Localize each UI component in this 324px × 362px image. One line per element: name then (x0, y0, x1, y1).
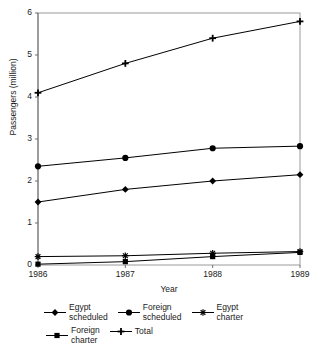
legend-key-asterisk-icon (192, 307, 214, 318)
y-tick-label: 5 (14, 50, 32, 59)
legend-row-2: Foreign charterTotal (32, 326, 308, 345)
plus-marker (117, 328, 124, 335)
series-line (38, 21, 300, 92)
legend-item-total[interactable]: Total (110, 326, 153, 337)
legend-item-foreign-scheduled[interactable]: Foreign scheduled (118, 303, 182, 322)
diamond-marker (297, 171, 304, 178)
square-marker (210, 254, 215, 259)
passengers-line-chart: Passengers (million) Year 0123456 198619… (0, 0, 324, 362)
x-tick-label: 1987 (105, 270, 145, 279)
chart-legend: Egypt scheduledForeign scheduledEgypt ch… (32, 303, 308, 349)
legend-row-1: Egypt scheduledForeign scheduledEgypt ch… (32, 303, 308, 322)
legend-label: Egypt charter (217, 303, 243, 322)
x-tick-label: 1986 (18, 270, 58, 279)
legend-label: Egypt scheduled (69, 303, 108, 322)
diamond-marker (122, 186, 129, 193)
circle-marker (126, 309, 132, 315)
circle-marker (297, 143, 303, 149)
plus-marker (122, 60, 129, 67)
square-marker (123, 259, 128, 264)
legend-key-square-icon (46, 330, 68, 341)
asterisk-marker (35, 253, 42, 260)
legend-label: Foreign charter (71, 326, 100, 345)
plus-marker (209, 35, 216, 42)
y-tick-label: 0 (14, 260, 32, 269)
legend-item-egypt-scheduled[interactable]: Egypt scheduled (44, 303, 108, 322)
series-total (35, 18, 304, 96)
y-tick-label: 3 (14, 134, 32, 143)
y-tick-label: 2 (14, 176, 32, 185)
legend-item-foreign-charter[interactable]: Foreign charter (46, 326, 100, 345)
y-tick-label: 4 (14, 92, 32, 101)
y-tick-label: 6 (14, 8, 32, 17)
plus-marker (35, 89, 42, 96)
series-egypt-scheduled (35, 171, 304, 205)
plus-marker (297, 18, 304, 25)
legend-key-diamond-icon (44, 307, 66, 318)
y-tick-label: 1 (14, 218, 32, 227)
circle-marker (210, 145, 216, 151)
series-foreign-scheduled (35, 143, 303, 169)
series-line (38, 146, 300, 166)
diamond-marker (209, 178, 216, 185)
asterisk-marker (122, 252, 129, 259)
x-tick-label: 1988 (193, 270, 233, 279)
square-marker (35, 262, 40, 267)
legend-label: Total (135, 327, 153, 337)
series-line (38, 175, 300, 202)
circle-marker (122, 155, 128, 161)
legend-label: Foreign scheduled (143, 303, 182, 322)
x-axis-title: Year (38, 284, 300, 294)
asterisk-marker (199, 309, 206, 316)
legend-key-circle-icon (118, 307, 140, 318)
legend-key-plus-icon (110, 326, 132, 337)
circle-marker (35, 163, 41, 169)
square-marker (297, 250, 302, 255)
x-tick-label: 1989 (280, 270, 320, 279)
square-marker (54, 333, 59, 338)
diamond-marker (52, 309, 59, 316)
diamond-marker (35, 199, 42, 206)
legend-item-egypt-charter[interactable]: Egypt charter (192, 303, 243, 322)
